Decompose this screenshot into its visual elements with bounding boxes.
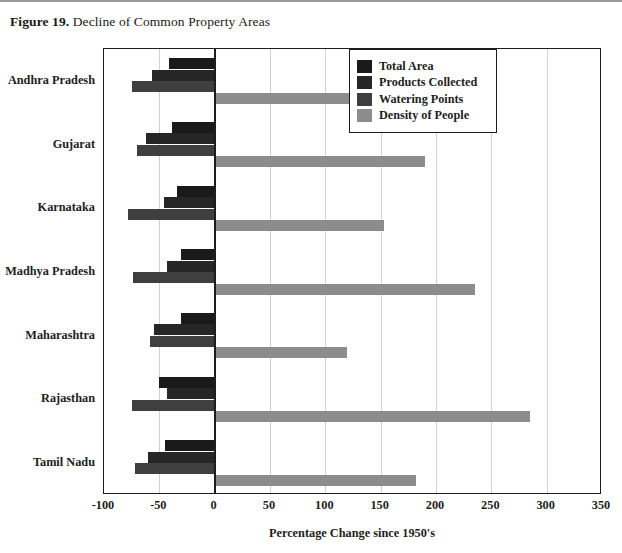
- bar: [132, 400, 215, 411]
- legend-item: Products Collected: [357, 75, 488, 90]
- x-axis-tick-label: 300: [536, 498, 554, 513]
- legend-item: Total Area: [357, 59, 488, 74]
- figure-caption: Figure 19. Decline of Common Property Ar…: [10, 14, 610, 30]
- legend-item: Density of People: [357, 108, 488, 123]
- y-axis-label: Andhra Pradesh: [8, 72, 95, 87]
- y-axis-label: Madhya Pradesh: [5, 264, 95, 279]
- x-axis-tick-label: 200: [426, 498, 444, 513]
- bar: [132, 81, 215, 92]
- bar: [215, 284, 475, 295]
- chart-legend: Total AreaProducts CollectedWatering Poi…: [349, 49, 497, 133]
- bar: [154, 324, 215, 335]
- x-axis-tick-label: 50: [263, 498, 275, 513]
- bar: [181, 249, 214, 260]
- legend-swatch-icon: [357, 109, 372, 122]
- bar: [164, 197, 215, 208]
- legend-swatch-icon: [357, 76, 372, 89]
- legend-label: Density of People: [379, 108, 469, 123]
- y-axis-category-labels: Andhra PradeshGujaratKarnatakaMadhya Pra…: [0, 48, 99, 494]
- y-axis-label: Rajasthan: [41, 391, 95, 406]
- page-body-text: [10, 543, 614, 553]
- x-axis-tick-labels: -100-50050100150200250300350: [103, 498, 601, 518]
- bar: [215, 411, 530, 422]
- bar: [177, 186, 215, 197]
- bar: [215, 475, 416, 486]
- x-axis-tick-label: -50: [150, 498, 166, 513]
- legend-label: Watering Points: [379, 92, 463, 107]
- y-axis-label: Maharashtra: [25, 327, 95, 342]
- bar: [152, 70, 215, 81]
- bar: [128, 209, 214, 220]
- bar: [181, 313, 214, 324]
- bar: [172, 122, 215, 133]
- x-axis-tick-label: 100: [315, 498, 333, 513]
- bar: [167, 261, 215, 272]
- bar: [133, 272, 215, 283]
- legend-item: Watering Points: [357, 92, 488, 107]
- x-axis-tick-label: -100: [92, 498, 115, 513]
- legend-swatch-icon: [357, 60, 372, 73]
- bar: [159, 377, 214, 388]
- bar: [169, 58, 214, 69]
- x-axis-tick-label: 250: [481, 498, 499, 513]
- y-axis-label: Karnataka: [38, 200, 95, 215]
- bar: [167, 388, 215, 399]
- bar: [215, 220, 384, 231]
- figure-title: Decline of Common Property Areas: [69, 14, 270, 29]
- legend-swatch-icon: [357, 93, 372, 106]
- bar: [165, 440, 215, 451]
- zero-axis-line: [214, 48, 216, 494]
- chart-region: Andhra PradeshGujaratKarnatakaMadhya Pra…: [0, 40, 622, 540]
- x-axis-title: Percentage Change since 1950's: [103, 526, 601, 541]
- bar: [215, 347, 348, 358]
- legend-label: Total Area: [379, 59, 434, 74]
- bar: [215, 156, 425, 167]
- figure-number: Figure 19.: [10, 14, 69, 29]
- bar: [137, 145, 214, 156]
- bar: [150, 336, 214, 347]
- x-axis-tick-label: 0: [211, 498, 217, 513]
- bar: [135, 463, 215, 474]
- page-top-rule: [0, 0, 622, 2]
- bar: [146, 133, 215, 144]
- y-axis-label: Tamil Nadu: [33, 455, 95, 470]
- x-axis-tick-label: 150: [370, 498, 388, 513]
- x-axis-tick-label: 350: [592, 498, 610, 513]
- legend-label: Products Collected: [379, 75, 477, 90]
- bar: [148, 452, 214, 463]
- y-axis-label: Gujarat: [53, 136, 95, 151]
